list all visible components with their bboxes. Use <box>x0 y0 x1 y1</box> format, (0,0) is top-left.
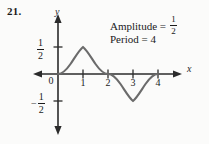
tick-label-origin: 0 <box>44 75 58 86</box>
y-axis-label: y <box>55 6 59 17</box>
tick-label-y-positive-half: 1 2 <box>37 38 44 61</box>
fraction-denominator: 2 <box>170 27 177 36</box>
fraction-numerator: 1 <box>170 15 177 24</box>
minus-sign: − <box>31 98 37 109</box>
tick-label-y-negative-half: − 1 2 <box>31 92 45 115</box>
fraction-one-half: 1 2 <box>170 15 177 36</box>
tick-label-x-3: 3 <box>126 77 140 88</box>
fraction-numerator: 1 <box>37 38 44 48</box>
tick-label-x-2: 2 <box>101 77 115 88</box>
fraction-numerator: 1 <box>38 92 45 102</box>
tick-label-x-4: 4 <box>151 77 165 88</box>
fraction-denominator: 2 <box>37 51 44 61</box>
sine-curve-plot <box>0 0 209 144</box>
annotation-amplitude-text: Amplitude = <box>110 20 166 32</box>
fraction-one-half: 1 2 <box>38 92 45 115</box>
tick-label-x-1: 1 <box>76 77 90 88</box>
annotation-period: Period = 4 <box>110 33 156 45</box>
annotation-period-text: Period = 4 <box>110 33 156 45</box>
fraction-one-half: 1 2 <box>37 38 44 61</box>
figure-container: 21. y x 0 1 2 3 4 <box>0 0 209 144</box>
x-axis-label: x <box>187 63 191 74</box>
fraction-denominator: 2 <box>38 105 45 115</box>
